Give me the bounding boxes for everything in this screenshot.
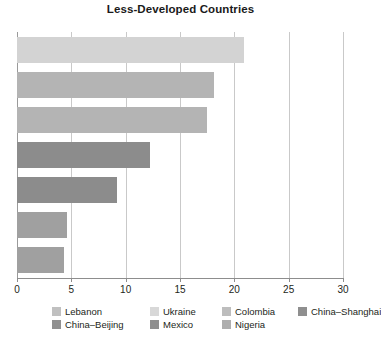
x-tick-label: 10 bbox=[111, 284, 141, 295]
gridline-30 bbox=[343, 32, 344, 278]
x-tick-label: 0 bbox=[2, 284, 32, 295]
legend-item-china-beijing[interactable]: China–Beijing bbox=[52, 318, 124, 331]
legend-row: China–BeijingMexicoNigeria bbox=[0, 318, 361, 331]
legend-label: Nigeria bbox=[235, 320, 265, 330]
legend-row: LebanonUkraineColombiaChina–Shanghai bbox=[0, 305, 361, 318]
tick-mark-0 bbox=[17, 278, 18, 282]
plot-area bbox=[17, 32, 343, 278]
legend-swatch-icon bbox=[52, 307, 61, 316]
legend-swatch-icon bbox=[150, 320, 159, 329]
legend-item-lebanon[interactable]: Lebanon bbox=[52, 305, 102, 318]
legend-label: China–Beijing bbox=[65, 320, 124, 330]
legend-swatch-icon bbox=[150, 307, 159, 316]
chart-legend: LebanonUkraineColombiaChina–Shanghai Chi… bbox=[0, 303, 361, 337]
legend-item-mexico[interactable]: Mexico bbox=[150, 318, 193, 331]
tick-mark-15 bbox=[180, 278, 181, 282]
legend-item-colombia[interactable]: Colombia bbox=[222, 305, 275, 318]
bar-china-beijing bbox=[17, 177, 117, 203]
legend-label: China–Shanghai bbox=[311, 307, 381, 317]
x-tick-label: 25 bbox=[274, 284, 304, 295]
tick-mark-25 bbox=[289, 278, 290, 282]
tick-mark-10 bbox=[126, 278, 127, 282]
tick-mark-5 bbox=[71, 278, 72, 282]
bar-china-shanghai bbox=[17, 142, 150, 168]
legend-label: Ukraine bbox=[163, 307, 196, 317]
legend-swatch-icon bbox=[222, 307, 231, 316]
bar-mexico bbox=[17, 212, 67, 238]
bars-group bbox=[17, 32, 343, 278]
bar-fill bbox=[17, 72, 214, 98]
tick-mark-20 bbox=[234, 278, 235, 282]
tick-mark-30 bbox=[343, 278, 344, 282]
legend-item-nigeria[interactable]: Nigeria bbox=[222, 318, 265, 331]
bar-fill bbox=[17, 37, 244, 63]
legend-label: Colombia bbox=[235, 307, 275, 317]
bar-fill bbox=[17, 177, 117, 203]
x-tick-label: 20 bbox=[219, 284, 249, 295]
bar-fill bbox=[17, 247, 64, 273]
bar-nigeria bbox=[17, 247, 64, 273]
bar-ukraine bbox=[17, 72, 214, 98]
legend-swatch-icon bbox=[52, 320, 61, 329]
legend-swatch-icon bbox=[222, 320, 231, 329]
bar-colombia bbox=[17, 107, 207, 133]
bar-fill bbox=[17, 142, 150, 168]
x-tick-label: 15 bbox=[165, 284, 195, 295]
bar-fill bbox=[17, 107, 207, 133]
bar-fill bbox=[17, 212, 67, 238]
chart-title: Less-Developed Countries bbox=[0, 3, 361, 15]
bar-lebanon bbox=[17, 37, 244, 63]
legend-label: Mexico bbox=[163, 320, 193, 330]
x-tick-label: 5 bbox=[56, 284, 86, 295]
legend-item-china-shanghai[interactable]: China–Shanghai bbox=[298, 305, 381, 318]
legend-swatch-icon bbox=[298, 307, 307, 316]
legend-label: Lebanon bbox=[65, 307, 102, 317]
x-tick-label: 30 bbox=[328, 284, 358, 295]
legend-item-ukraine[interactable]: Ukraine bbox=[150, 305, 196, 318]
